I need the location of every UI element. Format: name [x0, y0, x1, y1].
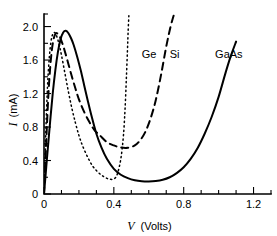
series-label-si: Si: [170, 48, 180, 60]
x-tick-label: 0.4: [106, 198, 121, 210]
tunnel-diode-iv-chart: 00.40.81.200.40.81.21.62.0GeSiGaAsV(Volt…: [0, 0, 277, 236]
x-tick-label: 0: [41, 198, 47, 210]
y-tick-label: 1.6: [23, 54, 38, 66]
axis-spines: [44, 14, 271, 194]
y-axis-title: I(mA): [6, 94, 20, 128]
x-tick-label: 0.8: [176, 198, 191, 210]
y-tick-label: 0.4: [23, 155, 38, 167]
x-axis-title: V(Volts): [127, 219, 172, 233]
x-tick-label: 1.2: [246, 198, 261, 210]
series-curve-ge: [44, 16, 129, 194]
series-label-gaas: GaAs: [215, 48, 243, 60]
y-tick-label: 2.0: [23, 21, 38, 33]
y-tick-label: 1.2: [23, 88, 38, 100]
series-label-ge: Ge: [142, 48, 157, 60]
series-curve-si: [44, 14, 174, 194]
y-tick-label: 0: [32, 188, 38, 200]
series-curve-gaas: [44, 31, 236, 194]
y-tick-label: 0.8: [23, 121, 38, 133]
svg-text:I(mA): I(mA): [6, 94, 20, 128]
chart-canvas: 00.40.81.200.40.81.21.62.0GeSiGaAsV(Volt…: [0, 0, 277, 236]
